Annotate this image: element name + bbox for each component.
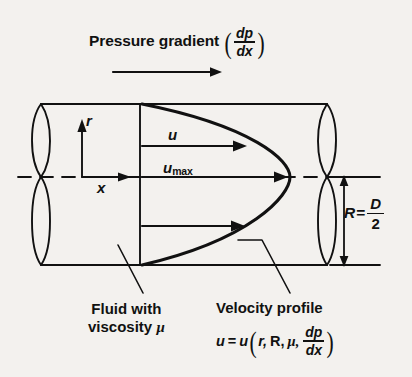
velocity-label-umax: umax xyxy=(163,160,193,177)
paren-open: ( xyxy=(224,31,231,54)
equation-arg-r: r, xyxy=(258,334,267,349)
axis-marker-x xyxy=(82,172,131,181)
pressure-gradient-label: Pressure gradient(dpdx) xyxy=(89,26,266,58)
radius-symbol: R xyxy=(344,205,355,221)
pipe-flow-figure: Pressure gradient(dpdx) r x u umax R=D2 … xyxy=(0,0,412,377)
pressure-gradient-arrow xyxy=(113,67,222,76)
equation-arg-mu: μ, xyxy=(288,334,300,349)
umax-base: u xyxy=(163,159,172,176)
equation-equals: = xyxy=(228,334,236,349)
equation-lhs: u xyxy=(216,334,225,349)
equation-dp: dp xyxy=(303,325,324,339)
pipe-right-end xyxy=(318,104,336,265)
fluid-line-1: Fluid with xyxy=(88,300,165,318)
velocity-arrow-lower xyxy=(142,221,245,232)
velocity-profile-curve xyxy=(142,104,290,265)
paren-close: ) xyxy=(257,31,264,54)
pressure-gradient-text: Pressure gradient xyxy=(89,32,219,49)
velocity-profile-equation: u=u(r,R,μ,dpdx) xyxy=(216,325,335,357)
pipe-left-end xyxy=(32,104,50,265)
equation-function: u xyxy=(239,334,248,349)
radius-divisor: 2 xyxy=(369,216,383,231)
dx-denominator: dx xyxy=(234,44,254,58)
equation-paren-close: ) xyxy=(327,330,334,353)
equation-dx: dx xyxy=(304,343,324,357)
fluid-viscosity-annotation: Fluid with viscosity μ xyxy=(88,300,165,337)
axis-label-x: x xyxy=(97,180,105,196)
umax-subscript: max xyxy=(172,165,192,177)
fluid-line-2: viscosity μ xyxy=(88,318,165,336)
radius-equals: = xyxy=(356,205,365,221)
viscosity-word: viscosity xyxy=(88,318,156,335)
diameter-symbol: D xyxy=(367,196,384,211)
axis-label-r: r xyxy=(86,113,92,129)
velocity-profile-annotation-title: Velocity profile xyxy=(216,300,323,316)
velocity-arrow-u xyxy=(142,141,247,152)
mu-symbol: μ xyxy=(156,319,164,335)
equation-arg-R: R, xyxy=(270,334,285,349)
velocity-profile-leader-line xyxy=(238,240,290,293)
dp-numerator: dp xyxy=(234,26,255,40)
dp-dx-fraction: (dpdx) xyxy=(223,26,266,58)
velocity-label-u: u xyxy=(168,127,177,143)
radius-label: R=D2 xyxy=(344,196,384,231)
equation-paren-open: ( xyxy=(250,330,257,353)
